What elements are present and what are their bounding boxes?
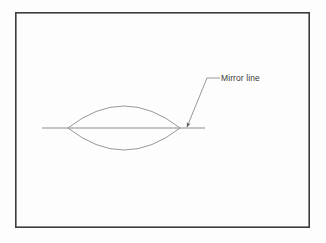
lens-upper-arc	[68, 106, 180, 128]
figure-root: Mirror line	[0, 0, 326, 243]
lens-lower-arc	[68, 128, 180, 150]
diagram-border	[16, 13, 309, 227]
callout-leader-line	[187, 78, 220, 127]
diagram-canvas	[0, 0, 326, 243]
